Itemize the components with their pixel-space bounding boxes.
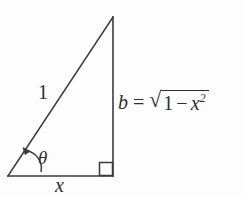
triangle-figure: 1 x θ b = √ 1−x2: [0, 0, 243, 197]
equation-equals-sign: =: [133, 91, 144, 114]
base-length-label: x: [55, 175, 64, 195]
radicand: 1−x2: [161, 90, 208, 115]
radicand-minus-sign: −: [173, 92, 190, 114]
triangle-hypotenuse: [8, 17, 113, 176]
radicand-one: 1: [163, 92, 173, 114]
square-root-expression: √ 1−x2: [149, 90, 208, 115]
radicand-exponent: 2: [200, 91, 206, 105]
right-angle-marker-icon: [100, 163, 113, 176]
radicand-x-variable: x: [191, 92, 200, 114]
angle-theta-label: θ: [38, 148, 47, 167]
hypotenuse-length-label: 1: [38, 82, 48, 102]
height-equation: b = √ 1−x2: [118, 90, 209, 115]
equation-variable-b: b: [118, 91, 128, 114]
radical-sign-icon: √: [149, 89, 161, 114]
